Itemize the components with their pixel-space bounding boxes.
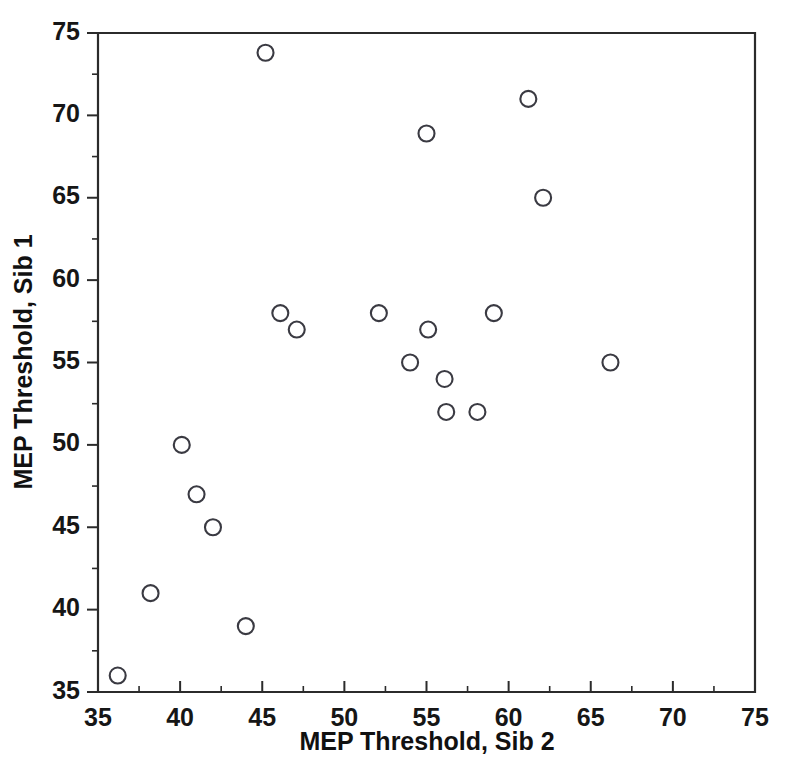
y-tick-label: 45 — [52, 511, 80, 539]
x-tick-label: 35 — [84, 703, 112, 731]
x-tick-label: 45 — [248, 703, 276, 731]
data-point — [486, 305, 502, 321]
data-point — [438, 404, 454, 420]
data-point — [189, 486, 205, 502]
y-tick-label: 55 — [52, 346, 80, 374]
y-tick-label: 40 — [52, 593, 80, 621]
data-point — [238, 618, 254, 634]
x-tick-label: 75 — [741, 703, 769, 731]
x-axis-title: MEP Threshold, Sib 2 — [299, 727, 554, 755]
y-tick-label: 70 — [52, 99, 80, 127]
x-tick-label: 70 — [659, 703, 687, 731]
data-point — [371, 305, 387, 321]
data-point — [420, 322, 436, 338]
data-point — [205, 519, 221, 535]
y-tick-label: 35 — [52, 676, 80, 704]
scatter-plot-figure: 354045505560657075 354045505560657075 ME… — [0, 0, 787, 781]
x-axis-ticks — [98, 681, 755, 692]
data-point — [402, 355, 418, 371]
data-point — [437, 371, 453, 387]
y-axis-title: MEP Threshold, Sib 1 — [9, 234, 37, 489]
data-point — [289, 322, 305, 338]
data-point — [535, 190, 551, 206]
data-point — [258, 45, 274, 61]
data-point — [110, 668, 126, 684]
data-point — [272, 305, 288, 321]
x-tick-label: 40 — [166, 703, 194, 731]
data-point — [602, 355, 618, 371]
plot-frame — [98, 33, 755, 692]
data-point — [143, 585, 159, 601]
data-point — [469, 404, 485, 420]
y-tick-label: 75 — [52, 17, 80, 45]
data-point — [520, 91, 536, 107]
axis-frame — [98, 33, 755, 692]
x-tick-label: 65 — [577, 703, 605, 731]
chart-canvas: 354045505560657075 354045505560657075 ME… — [0, 0, 787, 781]
y-tick-label: 50 — [52, 428, 80, 456]
y-axis-tick-labels: 354045505560657075 — [52, 17, 80, 704]
y-tick-label: 60 — [52, 264, 80, 292]
data-point-series — [110, 45, 619, 684]
y-axis-ticks — [87, 33, 98, 692]
data-point — [419, 125, 435, 141]
data-point — [174, 437, 190, 453]
y-tick-label: 65 — [52, 181, 80, 209]
